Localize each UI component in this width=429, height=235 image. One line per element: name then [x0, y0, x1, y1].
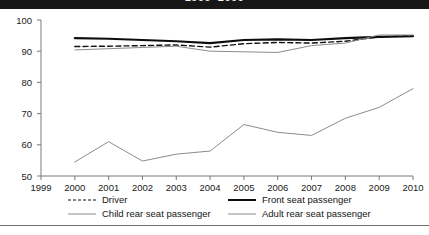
x-tick-label: 2006	[267, 182, 288, 193]
y-tick-label: 60	[21, 139, 32, 150]
legend-label-driver: Driver	[102, 194, 127, 205]
x-tick-label: 2003	[166, 182, 187, 193]
legend-row-2: Child rear seat passenger Adult rear sea…	[0, 207, 429, 220]
x-tick-label: 2002	[132, 182, 153, 193]
legend-item-front-seat-passenger: Front seat passenger	[228, 193, 352, 206]
chart-figure: 1999–2009 5060708090100 1999200020012002…	[0, 0, 429, 235]
legend-label-front-seat-passenger: Front seat passenger	[262, 194, 352, 205]
y-tick-label: 70	[21, 108, 32, 119]
x-tick-label: 2000	[64, 182, 85, 193]
x-tick-label: 2007	[301, 182, 322, 193]
x-tick-label: 2009	[369, 182, 390, 193]
y-tick-label: 80	[21, 77, 32, 88]
chart-legend: Driver Front seat passenger Child rear s…	[0, 193, 429, 223]
x-tick-label: 2004	[200, 182, 221, 193]
legend-label-adult-rear-seat-passenger: Adult rear seat passenger	[262, 208, 371, 219]
x-tick-label: 1999	[30, 182, 51, 193]
axis-ticks-group	[37, 20, 413, 180]
title-band: 1999–2009	[0, 0, 429, 9]
y-tick-labels: 5060708090100	[16, 15, 32, 182]
line-chart-svg: 5060708090100 19992000200120022003200420…	[0, 9, 429, 194]
y-tick-label: 100	[16, 15, 32, 26]
x-tick-label: 2001	[98, 182, 119, 193]
dashed-line-swatch-icon	[68, 195, 96, 205]
x-tick-label: 2008	[335, 182, 356, 193]
thin-line-swatch-icon	[68, 209, 96, 219]
y-tick-label: 90	[21, 46, 32, 57]
thin-line-swatch-icon-2	[228, 209, 256, 219]
x-tick-labels: 1999200020012002200320042005200620072008…	[30, 182, 423, 193]
legend-label-child-rear-seat-passenger: Child rear seat passenger	[102, 208, 211, 219]
legend-row-1: Driver Front seat passenger	[0, 193, 429, 206]
legend-item-adult-rear-seat-passenger: Adult rear seat passenger	[228, 207, 371, 220]
axes-group	[41, 20, 413, 176]
x-tick-label: 2005	[233, 182, 254, 193]
x-tick-label: 2010	[402, 182, 423, 193]
y-tick-label: 50	[21, 171, 32, 182]
chart-title: 1999–2009	[0, 0, 429, 4]
legend-item-driver: Driver	[68, 193, 127, 206]
plot-area: 5060708090100 19992000200120022003200420…	[0, 9, 429, 194]
bottom-divider	[0, 225, 429, 226]
legend-item-child-rear-seat-passenger: Child rear seat passenger	[68, 207, 211, 220]
series-line-adult-rear-seat-passenger	[75, 89, 413, 162]
data-series-group	[75, 35, 413, 162]
thick-line-swatch-icon	[228, 195, 256, 205]
